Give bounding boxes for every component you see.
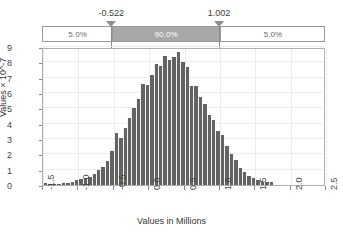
y-tick-mark [39, 79, 42, 80]
slider-segment-middle[interactable]: 90.0% [112, 27, 220, 41]
x-tick-label: 0.0 [152, 177, 162, 190]
slider-divider-left [112, 27, 113, 41]
y-tick-label: 0 [0, 181, 12, 191]
slider-segment-left-label: 5.0% [68, 30, 87, 39]
y-tick-mark [39, 155, 42, 156]
x-tick-mark [42, 186, 43, 190]
left-marker-label: -0.522 [98, 8, 124, 18]
histogram-bars [43, 49, 324, 185]
y-tick-label: 4 [0, 120, 12, 130]
x-tick-mark [113, 186, 114, 190]
slider-segment-left[interactable]: 5.0% [43, 27, 112, 41]
y-tick-mark [39, 48, 42, 49]
x-tick-label: 1.5 [258, 177, 268, 190]
x-tick-mark [184, 186, 185, 190]
slider-segment-right-label: 5.0% [264, 30, 283, 39]
y-tick-mark [39, 109, 42, 110]
y-tick-label: 9 [0, 43, 12, 53]
x-axis-label: Values in Millions [0, 216, 343, 226]
percentile-slider-band[interactable]: 5.0% 90.0% 5.0% [42, 26, 325, 42]
slider-divider-right [220, 27, 221, 41]
histogram-chart-widget: 5.0% 90.0% 5.0% -0.522 1.002 0123456789 … [0, 0, 343, 237]
x-tick-label: 0.5 [188, 177, 198, 190]
slider-segment-middle-label: 90.0% [155, 30, 178, 39]
y-tick-mark [39, 140, 42, 141]
x-tick-label: -1.5 [46, 174, 56, 190]
y-tick-mark [39, 171, 42, 172]
right-marker-label: 1.002 [208, 8, 231, 18]
histogram-bar [269, 182, 273, 185]
x-tick-label: 1.0 [223, 177, 233, 190]
x-tick-label: 2.5 [329, 177, 339, 190]
y-tick-mark [39, 63, 42, 64]
y-tick-label: 1 [0, 166, 12, 176]
y-tick-mark [39, 125, 42, 126]
x-tick-mark [219, 186, 220, 190]
plot-area [42, 48, 325, 186]
gridline-v [326, 49, 327, 185]
y-tick-label: 2 [0, 150, 12, 160]
y-axis-label: Values × 10^-7 [0, 58, 8, 117]
x-tick-mark [148, 186, 149, 190]
y-tick-label: 3 [0, 135, 12, 145]
slider-segment-right[interactable]: 5.0% [220, 27, 326, 41]
x-tick-mark [77, 186, 78, 190]
x-tick-mark [325, 186, 326, 190]
x-tick-mark [290, 186, 291, 190]
x-tick-label: 2.0 [294, 177, 304, 190]
x-tick-mark [254, 186, 255, 190]
gridline-h [43, 46, 324, 47]
x-tick-label: -0.5 [117, 174, 127, 190]
x-tick-label: -1.0 [81, 174, 91, 190]
y-tick-mark [39, 94, 42, 95]
